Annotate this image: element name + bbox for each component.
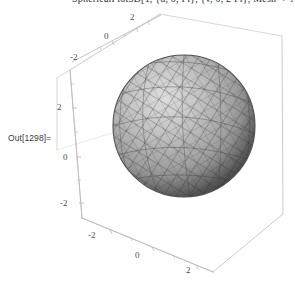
tick-label-left-0: 0	[63, 152, 68, 162]
sphere-surface	[110, 52, 260, 202]
sphere-3d-plot[interactable]	[0, 0, 295, 284]
tick-label-left-neg2: -2	[60, 198, 68, 208]
tick-label-left-2: 2	[57, 102, 62, 112]
notebook-output-cell: SphericalPlot3D[1, {u, 0, Pi}, {v, 0, 2 …	[0, 0, 295, 284]
tick-label-top-2: 2	[130, 12, 135, 22]
axis-top	[72, 15, 161, 62]
tick-label-bottom-2: 2	[186, 265, 191, 275]
tick-label-top-0: 0	[104, 31, 109, 41]
tick-label-back-neg2: -2	[70, 52, 78, 62]
axis-bottom	[82, 218, 213, 272]
tick-label-bottom-neg2: -2	[88, 230, 96, 240]
tick-label-bottom-0: 0	[135, 250, 140, 260]
